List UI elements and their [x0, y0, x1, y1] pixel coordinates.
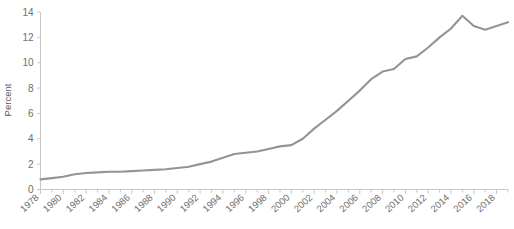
y-tick-label: 14 — [22, 7, 34, 18]
chart-canvas: 02468101214 1978198019821984198619881990… — [0, 0, 514, 229]
y-tick-label: 12 — [22, 32, 34, 43]
y-tick-label: 10 — [22, 57, 34, 68]
y-tick-label: 6 — [28, 108, 34, 119]
line-chart: 02468101214 1978198019821984198619881990… — [0, 0, 514, 229]
y-tick-label: 8 — [28, 83, 34, 94]
y-axis-title: Percent — [2, 83, 13, 116]
y-tick-label: 2 — [28, 159, 34, 170]
y-tick-label: 4 — [28, 133, 34, 144]
